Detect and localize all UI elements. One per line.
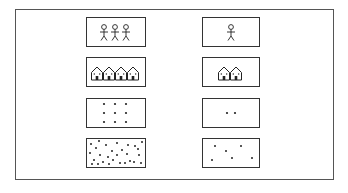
diagram-glyphs [0, 0, 348, 193]
dots-scatter-low [211, 145, 253, 161]
person-icon [100, 25, 108, 41]
house-icon [92, 67, 103, 80]
person-icon [122, 25, 130, 41]
house-icon [219, 67, 230, 80]
house-icon [231, 67, 242, 80]
dots-scatter-high [89, 140, 143, 165]
dots-grid-low [226, 112, 236, 114]
house-icon [116, 67, 127, 80]
person-icon [227, 25, 235, 41]
house-icon [128, 67, 139, 80]
dots-grid-high [103, 103, 127, 123]
person-icon [111, 25, 119, 41]
house-icon [104, 67, 115, 80]
